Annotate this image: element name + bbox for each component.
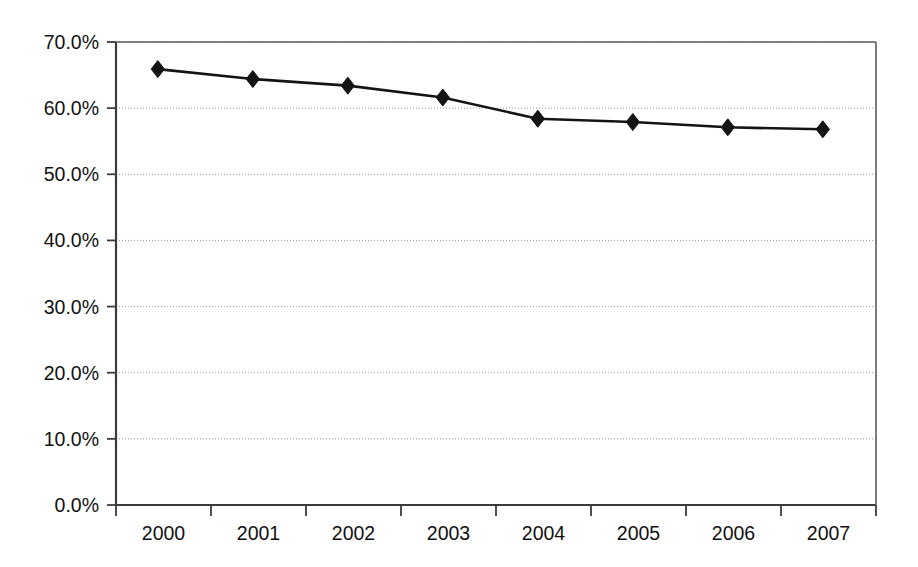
chart-canvas: 0.0%10.0%20.0%30.0%40.0%50.0%60.0%70.0% …	[0, 0, 918, 567]
x-axis-tick-label: 2006	[712, 522, 755, 544]
data-point-marker-diamond	[531, 110, 544, 127]
y-axis-tick-label: 70.0%	[44, 31, 99, 53]
grid-lines	[116, 42, 876, 439]
data-point-marker-diamond	[816, 121, 829, 138]
plot-frame	[116, 42, 876, 505]
x-axis-tick-label: 2003	[427, 522, 470, 544]
x-axis: 20002001200220032004200520062007	[116, 505, 876, 544]
x-axis-tick-label: 2000	[142, 522, 186, 544]
data-point-marker-diamond	[151, 61, 164, 78]
x-axis-tick-label: 2001	[237, 522, 280, 544]
y-axis-tick-label: 10.0%	[44, 428, 99, 450]
y-axis-tick-label: 40.0%	[44, 229, 99, 251]
x-axis-tick-label: 2005	[617, 522, 661, 544]
data-point-marker-diamond	[341, 77, 354, 94]
line-chart: 0.0%10.0%20.0%30.0%40.0%50.0%60.0%70.0% …	[0, 0, 918, 567]
y-axis-tick-label: 50.0%	[44, 163, 99, 185]
data-point-marker-diamond	[246, 71, 259, 88]
x-axis-tick-label: 2007	[807, 522, 850, 544]
data-point-marker-diamond	[721, 119, 734, 136]
x-axis-tick-label: 2004	[522, 522, 566, 544]
y-axis-tick-label: 0.0%	[55, 494, 99, 516]
x-axis-tick-label: 2002	[332, 522, 375, 544]
data-point-marker-diamond	[436, 89, 449, 106]
data-point-marker-diamond	[626, 114, 639, 131]
y-axis-tick-label: 30.0%	[44, 296, 99, 318]
y-axis-tick-label: 20.0%	[44, 362, 99, 384]
y-axis-tick-label: 60.0%	[44, 97, 99, 119]
series-layer	[151, 61, 829, 138]
y-axis: 0.0%10.0%20.0%30.0%40.0%50.0%60.0%70.0%	[44, 31, 116, 516]
